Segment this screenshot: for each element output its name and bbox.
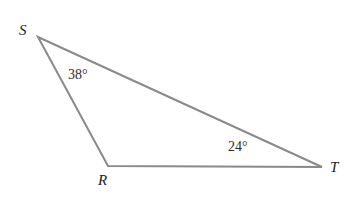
geometry-figure: S R T 38° 24° — [0, 0, 353, 216]
vertex-label-r: R — [98, 173, 107, 188]
angle-label-s: 38° — [68, 68, 88, 82]
vertex-label-s: S — [19, 23, 27, 38]
triangle-rst-outline — [38, 37, 322, 167]
triangle-shape — [0, 0, 353, 216]
vertex-label-t: T — [330, 160, 338, 175]
angle-label-t: 24° — [228, 140, 248, 154]
